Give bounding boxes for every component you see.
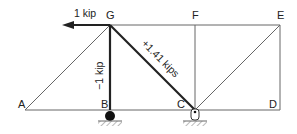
truss-diagram: G F E A B C D 1 kip −1 kip +1.41 kips: [0, 0, 297, 134]
node-label-b: B: [101, 98, 108, 110]
roller-support-b: [98, 111, 122, 126]
member-ce: [195, 25, 280, 110]
node-label-e: E: [277, 9, 284, 21]
load-arrow: [62, 21, 110, 29]
force-label-gb: −1 kip: [93, 62, 105, 90]
node-label-a: A: [18, 98, 26, 110]
node-label-c: C: [177, 98, 185, 110]
node-label-f: F: [192, 9, 199, 21]
node-label-d: D: [269, 98, 277, 110]
load-label: 1 kip: [74, 7, 96, 19]
force-label-gc: +1.41 kips: [140, 37, 183, 80]
node-label-g: G: [106, 9, 115, 21]
pin-support-c: [183, 109, 207, 126]
